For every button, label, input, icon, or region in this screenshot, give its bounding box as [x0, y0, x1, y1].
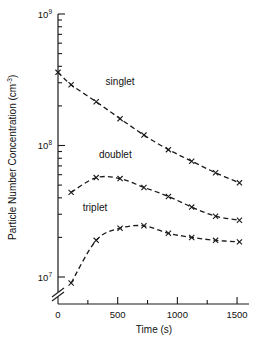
x-tick-label: 0 — [55, 309, 60, 320]
x-tick-label: 1000 — [167, 309, 188, 320]
data-point-marker — [166, 147, 171, 152]
data-point-marker — [166, 194, 171, 199]
series-label-triplet: triplet — [83, 202, 108, 213]
data-point-marker — [94, 99, 99, 104]
series-triplet — [69, 223, 243, 285]
x-tick-label: 1500 — [226, 309, 247, 320]
x-axis-title: Time (s) — [136, 324, 172, 335]
data-series-layer — [55, 70, 242, 286]
data-point-marker — [237, 180, 242, 185]
y-tick-label: 107 — [38, 271, 53, 283]
y-tick-label: 108 — [38, 139, 53, 151]
series-line — [71, 176, 239, 220]
y-axis-title: Particle Number Concentration (cm-3) — [6, 75, 18, 240]
data-point-marker — [69, 280, 74, 285]
data-point-marker — [69, 82, 74, 87]
y-axis-ticks — [58, 14, 65, 277]
data-point-marker — [213, 170, 218, 175]
data-point-marker — [189, 159, 194, 164]
data-point-marker — [117, 116, 122, 121]
x-axis-ticks — [58, 297, 237, 304]
series-line — [71, 226, 239, 284]
data-point-marker — [237, 218, 242, 223]
data-point-marker — [237, 239, 242, 244]
data-point-marker — [141, 132, 146, 137]
y-axis-tick-labels: 107108109 — [38, 8, 53, 283]
series-label-singlet: singlet — [106, 76, 135, 87]
data-point-marker — [69, 190, 74, 195]
series-doublet — [69, 175, 243, 223]
y-tick-label: 109 — [38, 8, 53, 20]
x-axis-tick-labels: 050010001500 — [55, 309, 247, 320]
series-annotations: singletdoublettriplet — [83, 76, 135, 213]
data-point-marker — [94, 238, 99, 243]
y-axis-title-text: Particle Number Concentration (cm-3) — [6, 75, 18, 240]
data-point-marker — [189, 205, 194, 210]
series-label-doublet: doublet — [99, 149, 132, 160]
series-singlet — [55, 70, 242, 186]
chart-figure: Particle Number Concentration (cm-3) 107… — [0, 0, 257, 340]
series-line — [58, 72, 239, 183]
particle-concentration-chart: Particle Number Concentration (cm-3) 107… — [0, 0, 257, 340]
x-tick-label: 500 — [110, 309, 126, 320]
data-point-marker — [141, 185, 146, 190]
